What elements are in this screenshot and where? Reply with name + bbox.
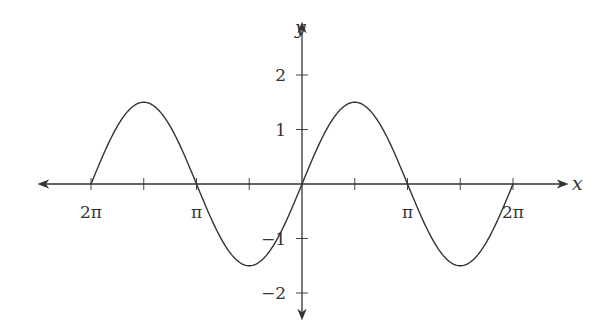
y-tick-label: −2 [261, 283, 286, 303]
axes [40, 24, 566, 318]
y-tick-label: 1 [275, 120, 286, 140]
x-tick-label: π [191, 202, 202, 222]
x-tick-label: π [402, 202, 413, 222]
y-axis-label: y [294, 16, 306, 38]
x-axis-label: x [572, 172, 583, 194]
sine-chart: 2πππ2π21−1−2 x y [0, 0, 611, 329]
y-tick-label: 2 [275, 65, 286, 85]
x-tick-label: 2π [502, 202, 524, 222]
x-tick-label: 2π [80, 202, 102, 222]
y-tick-label: −1 [261, 229, 286, 249]
